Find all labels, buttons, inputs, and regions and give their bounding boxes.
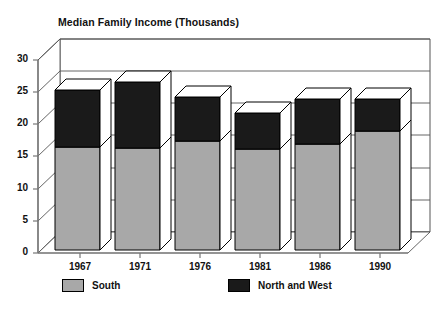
legend-item-south: South [62, 279, 120, 292]
x-tick-label-1986: 1986 [295, 261, 345, 272]
y-tick-label-20: 20 [2, 117, 28, 128]
y-tick-label-15: 15 [2, 149, 28, 160]
y-tick-label-0: 0 [2, 246, 28, 257]
bar-south-1981-side [280, 138, 291, 250]
bar-south-1976-front [175, 141, 220, 250]
bar-south-1990-side [400, 120, 411, 250]
bar-group-1976 [175, 86, 231, 250]
x-tick-label-1967: 1967 [55, 261, 105, 272]
bar-south-1971-front [115, 148, 160, 250]
black-swatch-icon [228, 279, 250, 292]
bar-south-1967-side [100, 136, 111, 250]
bar-group-1981 [235, 102, 291, 250]
bar-south-1967-front [55, 147, 100, 250]
bar-south-1971-side [160, 137, 171, 250]
bar-group-1967 [55, 79, 111, 250]
x-tick-label-1971: 1971 [115, 261, 165, 272]
legend-label-north-and-west: North and West [258, 280, 332, 291]
x-tick-label-1976: 1976 [175, 261, 225, 272]
bar-nw-1967-side [100, 79, 111, 147]
gray-swatch-icon [62, 279, 84, 292]
bar-south-1981-front [235, 149, 280, 250]
bar-nw-1981-front [235, 113, 280, 149]
bar-nw-1967-front [55, 90, 100, 147]
y-tick-label-5: 5 [2, 214, 28, 225]
bar-south-1990-front [355, 131, 400, 250]
y-tick-label-25: 25 [2, 85, 28, 96]
bar-group-1971 [115, 71, 171, 250]
y-tick-label-30: 30 [2, 53, 28, 64]
bar-nw-1986-front [295, 99, 340, 144]
legend-item-north-and-west: North and West [228, 279, 332, 292]
bar-group-1990 [355, 88, 411, 250]
bar-group-1986 [295, 88, 351, 250]
bar-nw-1971-front [115, 82, 160, 148]
bar-south-1986-front [295, 144, 340, 250]
x-axis [38, 253, 408, 258]
x-tick-label-1981: 1981 [235, 261, 285, 272]
bar-south-1976-side [220, 130, 231, 250]
chart-container: Median Family Income (Thousands) [0, 0, 446, 313]
bar-nw-1976-front [175, 97, 220, 141]
y-tick-marks [33, 60, 38, 253]
bar-south-1986-side [340, 133, 351, 250]
y-tick-label-10: 10 [2, 182, 28, 193]
bar-nw-1971-side [160, 71, 171, 148]
x-tick-label-1990: 1990 [355, 261, 405, 272]
bar-nw-1990-front [355, 99, 400, 131]
legend-label-south: South [92, 280, 120, 291]
